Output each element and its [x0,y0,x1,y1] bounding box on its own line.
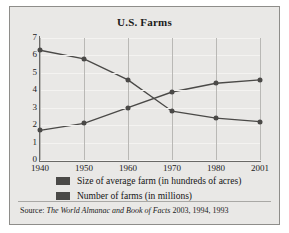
gridline-vertical [40,38,41,160]
gridline-horizontal [40,55,260,56]
y-tick-label: 3 [15,103,37,112]
y-tick-label: 1 [15,138,37,147]
x-tick-label: 2001 [251,163,269,173]
gridline-vertical [260,38,261,160]
y-tick-label: 7 [15,33,37,42]
x-tick-label: 1960 [119,163,137,173]
legend-item-1: Size of average farm (in hundreds of acr… [56,173,271,188]
data-point [126,77,131,82]
gridline-horizontal [40,125,260,126]
gridline-vertical [128,38,129,160]
gridline-vertical [172,38,173,160]
legend-swatch-icon [56,177,70,185]
x-tick-label: 1970 [163,163,181,173]
plot-area [40,38,260,160]
source-divider [18,201,271,202]
data-point [258,119,263,124]
data-point [38,48,43,53]
data-point [126,105,131,110]
x-axis-line [39,161,261,162]
gridline-vertical [216,38,217,160]
gridline-horizontal [40,143,260,144]
source-label: Source: [20,206,44,215]
data-point [82,121,87,126]
gridline-horizontal [40,73,260,74]
x-tick-label: 1980 [207,163,225,173]
x-tick-label: 1950 [75,163,93,173]
y-axis-ticks: 01234567 [10,38,37,160]
y-tick-label: 2 [15,120,37,129]
y-tick-label: 6 [15,50,37,59]
chart-legend: Size of average farm (in hundreds of acr… [56,173,271,203]
legend-item-label: Number of farms (in millions) [77,191,192,201]
gridline-horizontal [40,108,260,109]
data-point [170,90,175,95]
page-title: U.S. Farms [10,16,279,28]
legend-swatch-icon [56,192,70,200]
source-years: 2003, 1994, 1993 [172,206,228,215]
plot-canvas [40,38,260,160]
series-line-1 [40,80,260,131]
gridline-horizontal [40,160,260,161]
source-publication: The World Almanac and Book of Facts [46,206,170,215]
series-line-2 [40,50,260,121]
gridline-horizontal [40,38,260,39]
x-tick-label: 1940 [31,163,49,173]
chart-figure: U.S. Farms 01234567 19401950196019701980… [9,6,280,225]
data-point [82,56,87,61]
data-point [214,116,219,121]
y-tick-label: 4 [15,85,37,94]
data-point [214,81,219,86]
data-point [258,77,263,82]
legend-item-label: Size of average farm (in hundreds of acr… [77,176,241,186]
source-note: Source: The World Almanac and Book of Fa… [20,206,272,215]
y-tick-label: 5 [15,68,37,77]
data-point [38,128,43,133]
data-point [170,109,175,114]
gridline-horizontal [40,90,260,91]
